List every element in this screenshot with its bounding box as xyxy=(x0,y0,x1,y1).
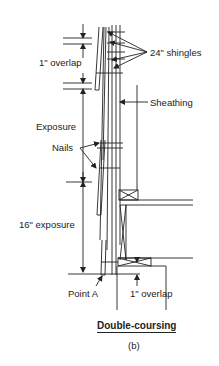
exposure-label: Exposure xyxy=(36,121,76,132)
point-a-label: Point A xyxy=(68,288,98,299)
exposure-16-label: 16" exposure xyxy=(19,219,75,230)
overlap-top-label: 1" overlap xyxy=(39,57,81,68)
nails-label: Nails xyxy=(52,142,73,153)
overlap-bottom-label: 1" overlap xyxy=(130,288,172,299)
shingles-label: 24" shingles xyxy=(150,47,201,58)
sheathing-label: Sheathing xyxy=(150,97,193,108)
figure-caption: (b) xyxy=(128,340,140,351)
figure-title: Double-coursing xyxy=(97,320,176,333)
